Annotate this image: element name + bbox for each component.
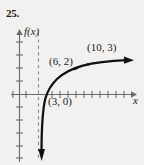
point-label-3-0: (3, 0): [48, 96, 72, 107]
point-label-10-3: (10, 3): [87, 42, 116, 53]
curve-bottom-arrowhead: [38, 149, 45, 161]
y-axis: [16, 29, 23, 162]
logarithmic-function-graph: [0, 0, 144, 165]
x-axis-label: x: [133, 95, 138, 106]
curve-point-marker: [87, 63, 90, 66]
function-curve: [38, 57, 134, 161]
y-axis-arrowhead: [16, 29, 22, 35]
y-axis-label: f(x): [24, 26, 39, 37]
figure-panel: 25.: [0, 0, 144, 165]
point-label-6-2: (6, 2): [49, 56, 73, 67]
x-axis: [11, 91, 137, 98]
curve-right-arrowhead: [124, 57, 134, 64]
